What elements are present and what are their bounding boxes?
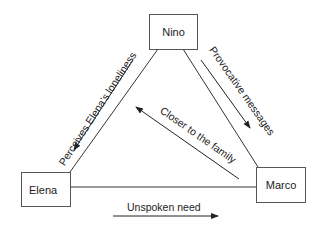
node-label: Elena — [29, 184, 57, 196]
node-nino: Nino — [149, 14, 198, 50]
edge-nino-elena — [70, 49, 158, 172]
node-label: Marco — [266, 179, 297, 191]
node-label: Nino — [162, 26, 185, 38]
node-elena: Elena — [21, 172, 71, 207]
label-unspoken-need: Unspoken need — [127, 201, 201, 213]
node-marco: Marco — [256, 167, 306, 203]
arrow-closer-to-family — [136, 107, 239, 179]
